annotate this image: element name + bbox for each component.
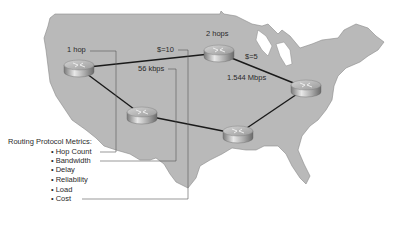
legend-label: Bandwidth <box>56 156 91 165</box>
label-1-hop: 1 hop <box>67 46 86 54</box>
legend-item-hop-count: •Hop Count <box>51 148 92 156</box>
label-2-hops: 2 hops <box>206 30 229 38</box>
legend-title: Routing Protocol Metrics: <box>8 137 92 146</box>
router-icon-west <box>64 60 94 77</box>
bullet-icon: • <box>51 185 54 194</box>
legend-label: Reliability <box>56 175 88 184</box>
label-1544-mbps: 1.544 Mbps <box>227 74 266 82</box>
legend-item-cost: •Cost <box>51 195 71 203</box>
label-56-kbps: 56 kbps <box>138 65 164 73</box>
legend-item-load: •Load <box>51 186 72 194</box>
bullet-icon: • <box>51 156 54 165</box>
bullet-icon: • <box>51 194 54 203</box>
router-icon-south <box>223 126 253 143</box>
legend-label: Cost <box>56 194 71 203</box>
legend-label: Delay <box>56 165 75 174</box>
label-cost-5: $=5 <box>245 53 258 61</box>
legend-item-reliability: •Reliability <box>51 176 88 184</box>
label-cost-10: $=10 <box>157 46 174 54</box>
legend-label: Hop Count <box>56 147 92 156</box>
legend-label: Load <box>56 185 73 194</box>
router-icon-east <box>291 80 321 97</box>
bullet-icon: • <box>51 175 54 184</box>
legend-item-delay: •Delay <box>51 166 75 174</box>
bullet-icon: • <box>51 147 54 156</box>
legend-item-bandwidth: •Bandwidth <box>51 157 91 165</box>
bullet-icon: • <box>51 165 54 174</box>
router-icon-north <box>204 45 234 62</box>
router-icon-southwest <box>127 107 157 124</box>
